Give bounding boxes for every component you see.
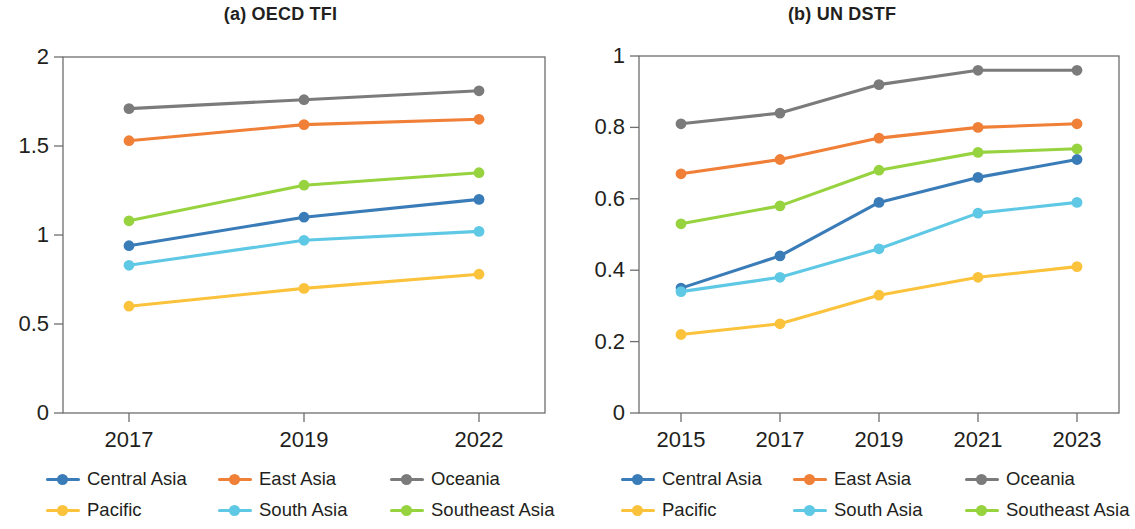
data-point [299, 283, 310, 294]
legend-item-southeast-asia: Southeast Asia [965, 501, 1135, 520]
data-point [874, 243, 885, 254]
data-point [973, 208, 984, 219]
legend-label: East Asia [834, 470, 911, 489]
y-tick-label: 1 [37, 222, 49, 247]
legend-label: Southeast Asia [1006, 501, 1129, 520]
legend-label: Southeast Asia [431, 501, 554, 520]
legend-label: South Asia [834, 501, 922, 520]
data-point [775, 251, 786, 262]
data-point [973, 147, 984, 158]
legend-item-oceania: Oceania [965, 470, 1135, 489]
legend-marker-icon [621, 473, 655, 487]
legend-item-central-asia: Central Asia [46, 470, 218, 489]
legend-panel-a: Central Asia East Asia Oceania Pacific S… [0, 460, 561, 529]
data-point [973, 172, 984, 183]
legend-label: Oceania [431, 470, 500, 489]
data-point [676, 286, 687, 297]
series-line [681, 160, 1077, 289]
x-tick-label: 2021 [954, 427, 1003, 452]
data-point [676, 168, 687, 179]
legend-item-pacific: Pacific [46, 501, 218, 520]
legend-grid-b: Central Asia East Asia Oceania Pacific S… [621, 464, 1135, 526]
data-point [676, 218, 687, 229]
legend-marker-icon [390, 473, 424, 487]
x-tick-label: 2019 [855, 427, 904, 452]
data-point [124, 301, 135, 312]
data-point [1072, 65, 1083, 76]
data-point [474, 194, 485, 205]
data-point [874, 290, 885, 301]
legend-label: South Asia [259, 501, 347, 520]
legend-item-south-asia: South Asia [793, 501, 965, 520]
series-line [681, 149, 1077, 224]
data-point [874, 197, 885, 208]
data-point [299, 180, 310, 191]
legend-label: Oceania [1006, 470, 1075, 489]
data-point [775, 154, 786, 165]
data-point [973, 272, 984, 283]
legend-marker-icon [965, 504, 999, 518]
legend-marker-icon [46, 473, 80, 487]
legend-item-pacific: Pacific [621, 501, 793, 520]
y-tick-label: 2 [37, 44, 49, 69]
data-point [775, 108, 786, 119]
data-point [775, 272, 786, 283]
legend-marker-icon [793, 504, 827, 518]
legend-marker-icon [793, 473, 827, 487]
data-point [474, 85, 485, 96]
legend-marker-icon [621, 504, 655, 518]
panels-container: (a) OECD TFI 00.511.52201720192022 (b) U… [0, 0, 1123, 460]
plot-area-un-dstf: 00.20.40.60.8120152017201920212023 [561, 0, 1123, 460]
y-tick-label: 1 [613, 43, 625, 68]
y-tick-label: 0.6 [594, 186, 625, 211]
data-point [775, 201, 786, 212]
plot-frame [639, 56, 1119, 413]
data-point [124, 135, 135, 146]
legend-marker-icon [218, 504, 252, 518]
data-point [874, 79, 885, 90]
data-point [124, 260, 135, 271]
legend-marker-icon [46, 504, 80, 518]
data-point [299, 212, 310, 223]
data-point [1072, 143, 1083, 154]
data-point [973, 122, 984, 133]
data-point [474, 167, 485, 178]
x-tick-label: 2022 [455, 427, 504, 452]
x-tick-label: 2015 [657, 427, 706, 452]
data-point [874, 133, 885, 144]
data-point [124, 215, 135, 226]
data-point [1072, 154, 1083, 165]
x-tick-label: 2017 [756, 427, 805, 452]
data-point [299, 119, 310, 130]
data-point [1072, 118, 1083, 129]
legend-label: Pacific [87, 501, 142, 520]
panel-un-dstf: (b) UN DSTF 00.20.40.60.8120152017201920… [561, 0, 1123, 460]
x-tick-label: 2017 [105, 427, 154, 452]
legend-item-southeast-asia: Southeast Asia [390, 501, 580, 520]
y-tick-label: 0 [613, 400, 625, 425]
y-tick-label: 1.5 [18, 133, 49, 158]
series-line [681, 70, 1077, 124]
x-tick-label: 2023 [1053, 427, 1102, 452]
data-point [474, 269, 485, 280]
legend-item-oceania: Oceania [390, 470, 580, 489]
data-point [676, 329, 687, 340]
legend-grid-a: Central Asia East Asia Oceania Pacific S… [46, 464, 580, 526]
data-point [1072, 197, 1083, 208]
data-point [124, 240, 135, 251]
y-tick-label: 0.5 [18, 311, 49, 336]
legend-item-south-asia: South Asia [218, 501, 390, 520]
y-tick-label: 0.8 [594, 114, 625, 139]
y-tick-label: 0 [37, 400, 49, 425]
data-point [124, 103, 135, 114]
legend-item-east-asia: East Asia [793, 470, 965, 489]
data-point [874, 165, 885, 176]
legend-label: Central Asia [87, 470, 187, 489]
legend-marker-icon [218, 473, 252, 487]
legend-label: East Asia [259, 470, 336, 489]
plot-area-oecd-tfi: 00.511.52201720192022 [0, 0, 561, 460]
data-point [299, 94, 310, 105]
y-tick-label: 0.2 [594, 329, 625, 354]
y-tick-label: 0.4 [594, 257, 625, 282]
